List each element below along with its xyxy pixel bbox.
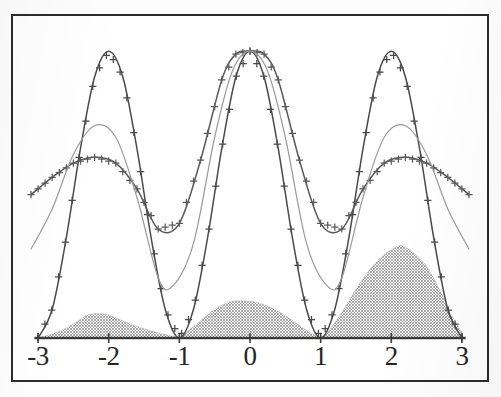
plus-marker — [438, 273, 445, 280]
plus-marker — [363, 129, 370, 136]
series-line — [31, 51, 469, 233]
plus-marker — [267, 106, 274, 113]
plus-marker — [287, 225, 294, 232]
plus-marker — [233, 73, 240, 80]
series-secondary-marked-curve — [27, 48, 472, 233]
plus-marker — [219, 141, 226, 148]
plus-marker — [197, 157, 204, 164]
plus-marker — [62, 239, 69, 246]
plus-marker — [130, 129, 137, 136]
plus-marker — [211, 103, 218, 110]
plus-marker — [294, 262, 301, 269]
plus-marker — [123, 94, 130, 101]
plus-marker — [281, 182, 288, 189]
plus-marker — [91, 154, 98, 161]
plot-frame — [11, 14, 489, 382]
plus-marker — [55, 273, 62, 280]
plus-marker — [82, 117, 89, 124]
plus-marker — [424, 197, 431, 204]
plus-marker — [119, 168, 126, 175]
plot-area — [13, 16, 487, 380]
plus-marker — [69, 197, 76, 204]
plus-marker — [370, 94, 377, 101]
plus-marker — [402, 154, 409, 161]
plus-marker — [218, 76, 225, 83]
plus-marker — [212, 182, 219, 189]
plus-marker — [303, 178, 310, 185]
plus-marker — [162, 224, 169, 231]
shaded-area — [38, 245, 462, 338]
plot-svg — [13, 16, 487, 380]
plus-marker — [205, 225, 212, 232]
plus-marker — [395, 156, 402, 163]
plus-marker — [199, 262, 206, 269]
plus-marker — [137, 168, 144, 175]
plus-marker — [204, 130, 211, 137]
plus-marker — [89, 83, 96, 90]
plus-marker — [169, 222, 176, 229]
plus-marker — [374, 168, 381, 175]
shaded-area-group — [38, 245, 462, 338]
plus-marker — [190, 178, 197, 185]
plus-marker — [431, 239, 438, 246]
plus-marker — [226, 106, 233, 113]
plus-marker — [192, 297, 199, 304]
plus-marker — [282, 103, 289, 110]
plus-marker — [275, 76, 282, 83]
figure-canvas: -3-2-10123 — [0, 0, 501, 397]
plus-marker — [356, 168, 363, 175]
plus-marker — [390, 52, 397, 59]
plus-marker — [296, 157, 303, 164]
plus-marker — [331, 224, 338, 231]
plus-marker — [98, 156, 105, 163]
plus-marker — [84, 156, 91, 163]
plus-marker — [411, 117, 418, 124]
plus-marker — [404, 83, 411, 90]
plus-marker — [289, 130, 296, 137]
plus-marker — [103, 52, 110, 59]
plus-marker — [274, 141, 281, 148]
plus-marker — [301, 297, 308, 304]
plus-marker — [260, 73, 267, 80]
plus-marker — [409, 156, 416, 163]
plus-marker — [48, 307, 55, 314]
plus-marker — [324, 222, 331, 229]
